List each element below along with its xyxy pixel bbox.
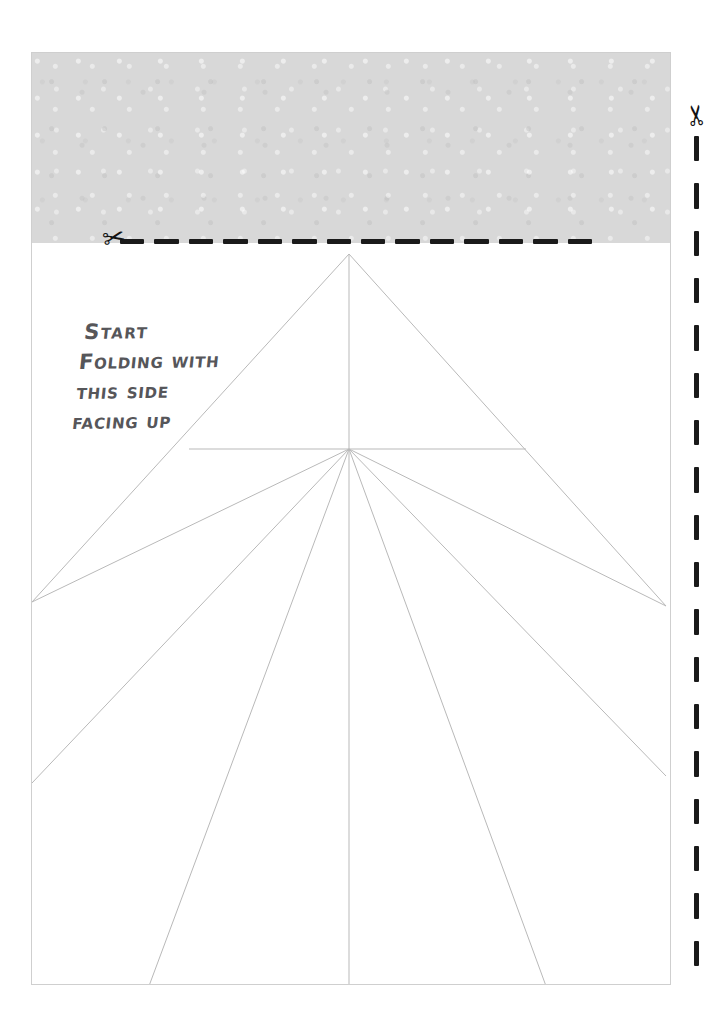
cut-line-vertical: [694, 136, 699, 966]
cut-dash: [361, 239, 385, 244]
scissors-icon-vertical: ✂: [676, 95, 718, 135]
cut-dash: [694, 704, 699, 729]
cut-dash: [694, 278, 699, 303]
cut-dash: [464, 239, 488, 244]
handwritten-instruction: Start Folding with this side facing up: [71, 314, 314, 437]
cut-dash: [694, 373, 699, 398]
cut-dash: [499, 239, 523, 244]
instruction-line-4: facing up: [71, 404, 305, 437]
crease-roof-right: [349, 254, 666, 606]
crease-fan-right-1: [349, 449, 666, 606]
cut-dash: [533, 239, 557, 244]
cut-dash: [154, 239, 178, 244]
cut-dash: [694, 799, 699, 824]
instruction-line-1: Start: [83, 314, 315, 347]
cut-dash: [694, 941, 699, 966]
cut-dash: [694, 609, 699, 634]
cut-dash: [189, 239, 213, 244]
cut-dash: [327, 239, 351, 244]
cut-dash: [694, 751, 699, 776]
cut-dash: [694, 136, 699, 161]
cut-dash: [223, 239, 247, 244]
cut-dash: [694, 231, 699, 256]
cut-dash: [694, 562, 699, 587]
cut-dash: [694, 657, 699, 682]
cut-dash: [258, 239, 282, 244]
cut-line-horizontal: [120, 239, 592, 244]
cut-dash: [430, 239, 454, 244]
crease-fan-left-3: [149, 449, 349, 985]
crease-fan-left-2: [32, 449, 349, 783]
printable-fold-template-page: Start Folding with this side facing up ✂…: [0, 0, 723, 1029]
cut-dash: [395, 239, 419, 244]
cut-dash: [694, 846, 699, 871]
cut-dash: [694, 325, 699, 350]
crease-fan-left-1: [32, 449, 349, 602]
cut-dash: [694, 183, 699, 208]
cut-dash: [568, 239, 592, 244]
cut-dash: [292, 239, 316, 244]
scissors-icon-horizontal: ✂: [94, 218, 134, 258]
cut-dash: [694, 467, 699, 492]
instruction-line-2: Folding with: [77, 344, 311, 377]
fold-crease-lines: [32, 53, 671, 985]
crease-fan-right-3: [349, 449, 546, 985]
instruction-line-3: this side: [75, 374, 308, 407]
cut-dash: [694, 420, 699, 445]
cut-dash: [694, 893, 699, 918]
crease-fan-right-2: [349, 449, 666, 776]
paper-sheet: Start Folding with this side facing up: [31, 52, 671, 985]
cut-dash: [694, 515, 699, 540]
